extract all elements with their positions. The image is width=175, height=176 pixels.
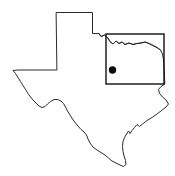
map-canvas	[0, 0, 175, 176]
location-dot[interactable]	[109, 66, 116, 73]
texas-map-figure	[0, 0, 175, 176]
